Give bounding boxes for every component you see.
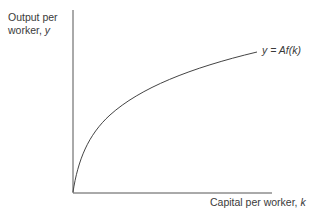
y-axis-label-line1: Output per	[8, 11, 58, 23]
x-axis-label-text: Capital per worker,	[210, 196, 300, 208]
x-axis-label: Capital per worker, k	[210, 196, 306, 209]
curve-label: y = Af(k)	[262, 44, 301, 57]
y-axis-label: Output per worker, y	[8, 11, 58, 37]
x-axis-variable: k	[300, 196, 305, 208]
production-curve	[73, 52, 257, 192]
y-axis-variable: y	[45, 24, 50, 36]
y-axis-label-line2: worker,	[8, 24, 45, 36]
